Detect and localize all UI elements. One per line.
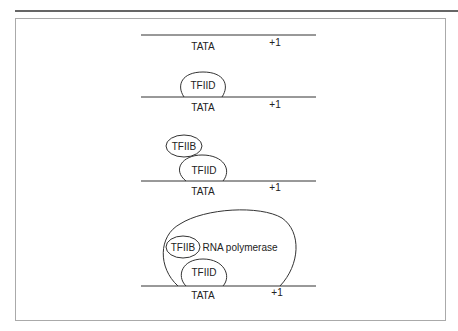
start-site-label: +1 [269,37,281,48]
tata-label: TATA [191,290,215,301]
start-site-label: +1 [269,182,281,193]
stage-1: TATA +1 [141,35,316,52]
tata-label: TATA [191,41,215,52]
stage-3: TFIIB TFIID TATA +1 [141,135,316,197]
tfiid-label: TFIID [192,165,217,176]
transcription-initiation-diagram: TATA +1 TFIID TATA +1 TFIIB TFIID TATA +… [0,0,458,331]
tfiib-label: TFIIB [172,141,197,152]
stage-2: TFIID TATA +1 [141,72,316,113]
stage-4: RNA polymerase TFIIB TFIID TATA +1 [141,210,316,301]
tfiib-label: TFIIB [171,242,196,253]
tata-label: TATA [191,102,215,113]
start-site-label: +1 [271,287,283,298]
rna-polymerase-label: RNA polymerase [202,242,277,253]
tfiid-label: TFIID [191,80,216,91]
start-site-label: +1 [269,99,281,110]
figure-frame [16,19,446,321]
tata-label: TATA [191,186,215,197]
tfiid-label: TFIID [192,267,217,278]
